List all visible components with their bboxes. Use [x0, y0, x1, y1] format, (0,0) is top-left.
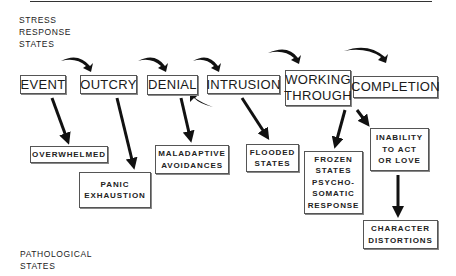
- back-arrow-icon: [190, 94, 213, 107]
- pathology-panic-exhaustion: PANIC EXHAUSTION: [79, 172, 151, 208]
- pathology-character-distortions: CHARACTER DISTORTIONS: [363, 220, 438, 249]
- pathology-text: FLOODED: [250, 147, 295, 159]
- state-text: COMPLETION: [351, 79, 440, 95]
- pathology-text: DISTORTIONS: [368, 235, 432, 247]
- pathology-text: PSYCHO-: [308, 177, 360, 189]
- pathology-text: OR LOVE: [376, 155, 423, 167]
- curved-arrow-icon: [193, 57, 221, 72]
- pathology-text: AVOIDANCES: [158, 160, 226, 172]
- pathology-maladaptive-avoidances: MALADAPTIVE AVOIDANCES: [155, 145, 229, 174]
- pathology-text: INABILITY: [376, 132, 423, 144]
- arrow-intrusion-flooded: [242, 98, 266, 135]
- arrow-event-overwhelmed: [52, 98, 67, 139]
- pathology-text: MALADAPTIVE: [158, 148, 226, 160]
- pathology-text: CHARACTER: [368, 223, 432, 235]
- state-text: DENIAL: [148, 77, 197, 93]
- state-text: THROUGH: [284, 88, 352, 104]
- state-text: OUTCRY: [80, 77, 136, 93]
- state-intrusion: INTRUSION: [207, 75, 280, 94]
- state-outcry: OUTCRY: [80, 75, 137, 94]
- state-completion: COMPLETION: [353, 76, 438, 98]
- pathology-text: TO ACT: [376, 144, 423, 156]
- state-denial: DENIAL: [147, 75, 198, 95]
- arrow-working-frozen: [336, 110, 345, 143]
- pathology-text: STATES: [250, 158, 295, 170]
- curved-arrow-icon: [138, 57, 168, 72]
- curved-arrow-icon: [344, 48, 388, 63]
- curved-arrow-icon: [61, 57, 93, 72]
- pathology-flooded-states: FLOODED STATES: [246, 144, 299, 172]
- pathology-text: FROZEN: [308, 154, 360, 166]
- pathology-text: STATES: [308, 165, 360, 177]
- pathology-frozen-states: FROZEN STATES PSYCHO- SOMATIC RESPONSE: [304, 151, 363, 214]
- state-text: EVENT: [21, 77, 66, 93]
- state-text: INTRUSION: [206, 77, 280, 93]
- arrow-outcry-panic: [117, 98, 133, 164]
- state-working-through: WORKING THROUGH: [285, 70, 351, 106]
- curved-arrow-icon: [268, 49, 301, 64]
- pathology-text: SOMATIC: [308, 188, 360, 200]
- arrow-denial-maladaptive: [181, 98, 190, 137]
- pathology-text: RESPONSE: [308, 200, 360, 212]
- pathology-text: OVERWHELMED: [32, 149, 106, 161]
- pathology-text: PANIC: [84, 179, 145, 191]
- arrow-working-inability: [357, 110, 366, 122]
- pathology-overwhelmed: OVERWHELMED: [30, 146, 108, 163]
- pathology-text: EXHAUSTION: [84, 190, 145, 202]
- state-event: EVENT: [20, 75, 66, 94]
- state-text: WORKING: [284, 72, 352, 88]
- pathology-inability-to-act-or-love: INABILITY TO ACT OR LOVE: [370, 128, 429, 171]
